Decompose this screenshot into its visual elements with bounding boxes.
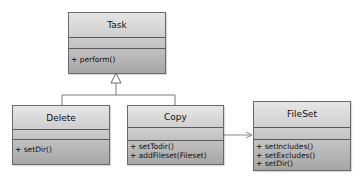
operation-divider [254,139,350,140]
operation: + addFileset(Fileset) [130,152,223,161]
operations-list: + setIncludes() + setExcludes() + setDir… [256,143,350,169]
generalization-triangle-icon [111,73,121,83]
class-copy[interactable]: Copy + setTodir() + addFileset(Fileset) [127,105,224,165]
class-delete[interactable]: Delete + setDir() [12,105,110,165]
operation-divider [128,140,223,141]
class-fileset[interactable]: FileSet + setIncludes() + setExcludes() … [253,101,351,171]
class-task[interactable]: Task + perform() [68,12,166,74]
operation: + perform() [71,56,165,65]
operations-list: + perform() [71,56,165,65]
attribute-divider [69,37,165,38]
operation-divider [13,139,109,140]
operation: + setDir() [256,160,350,169]
operation-divider [69,48,165,49]
attribute-divider [13,129,109,130]
attribute-divider [128,127,223,128]
operation: + setDir() [15,146,109,155]
class-name: FileSet [254,109,350,119]
attribute-divider [254,127,350,128]
operations-list: + setDir() [15,146,109,155]
class-name: Copy [128,112,223,122]
class-name: Task [69,20,165,30]
operations-list: + setTodir() + addFileset(Fileset) [130,143,223,160]
class-name: Delete [13,113,109,123]
